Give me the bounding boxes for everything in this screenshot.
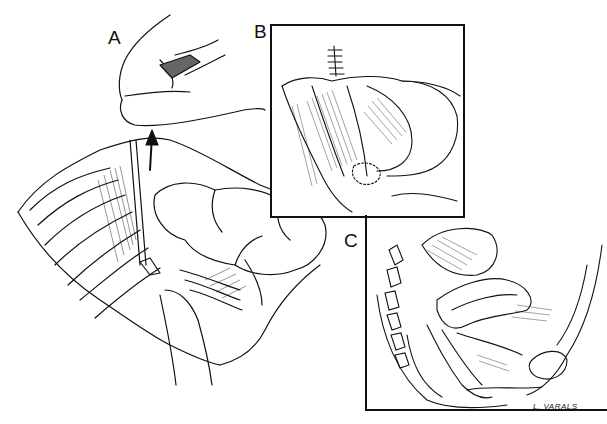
panel-label-a: A (108, 28, 121, 47)
panel-label-c: C (344, 231, 358, 250)
panel-label-b: B (254, 22, 267, 41)
panel-c-frame (365, 215, 607, 411)
artist-signature: L. VARALS (533, 402, 578, 411)
panel-b-frame (270, 24, 465, 218)
panel-c-drawing (367, 215, 607, 409)
panel-b-drawing (272, 26, 463, 216)
